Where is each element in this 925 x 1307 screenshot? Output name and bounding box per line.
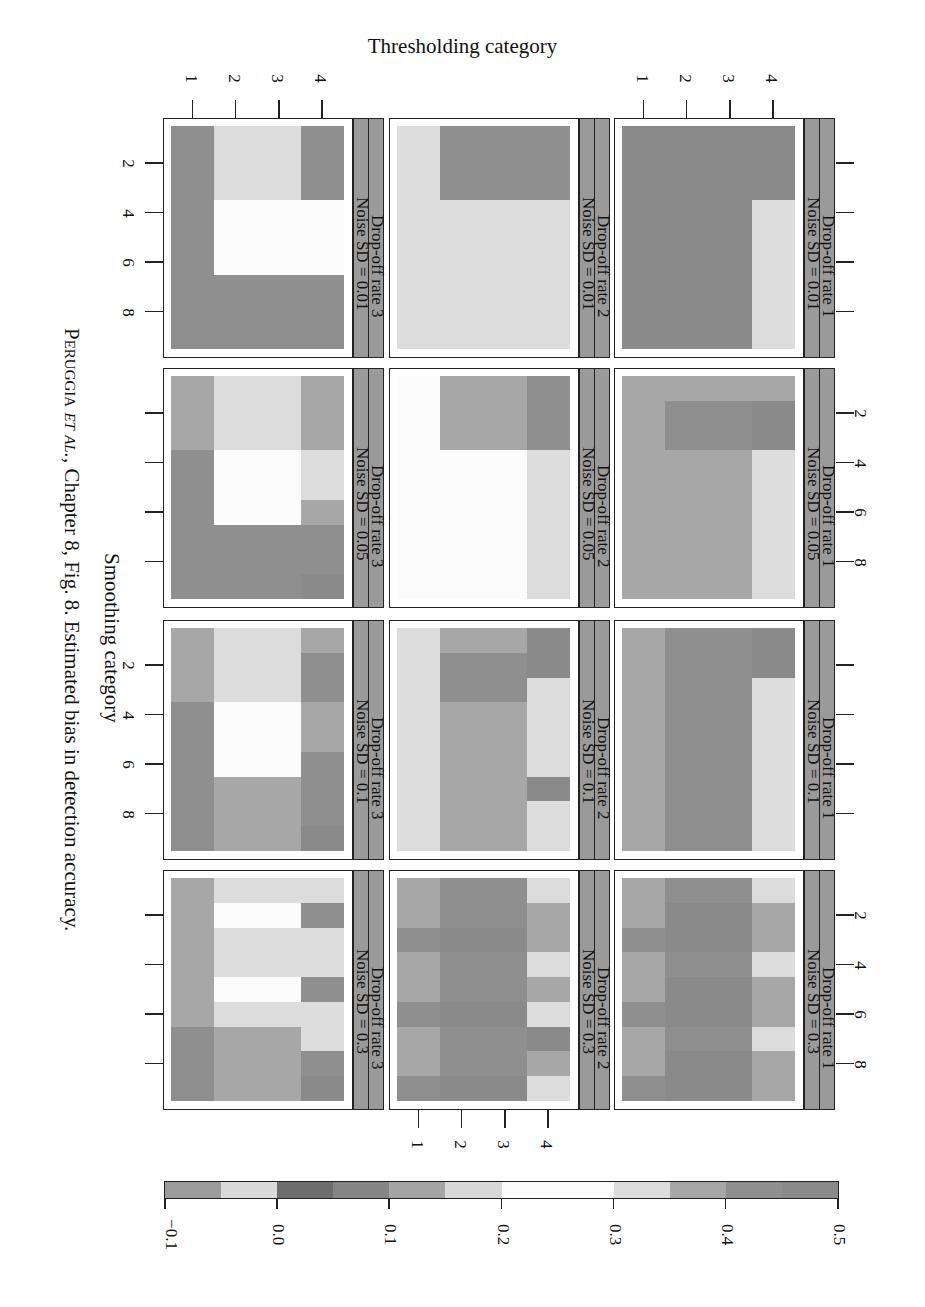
heatmap-cell [665, 250, 708, 275]
heatmap-cell [752, 702, 795, 727]
axis-tick [145, 813, 163, 815]
heatmap-cell [527, 376, 570, 401]
heatmap-cell [484, 376, 527, 401]
color-key [164, 1181, 839, 1199]
heatmap-cell [622, 151, 665, 176]
heatmap-cell [752, 1002, 795, 1027]
caption-etal: et al. [60, 412, 84, 458]
noise-strip: Noise SD = 0.1 [353, 620, 369, 860]
tick-label: 4 [852, 961, 869, 970]
heatmap-cell [752, 151, 795, 176]
color-key-label: 0.5 [831, 1224, 848, 1245]
noise-strip: Noise SD = 0.1 [804, 620, 820, 860]
heatmap-cell [709, 1027, 752, 1052]
heatmap-cell [484, 777, 527, 802]
axis-tick [145, 664, 163, 666]
heatmap-cell [665, 225, 708, 250]
heatmap-cell [527, 752, 570, 777]
heatmap-cell [301, 653, 344, 678]
heatmap-cell [527, 777, 570, 802]
heatmap-cell [214, 653, 257, 678]
axis-tick [145, 763, 163, 765]
heatmap-cell [484, 126, 527, 151]
dropoff-strip: Drop-off rate 2 [594, 870, 610, 1110]
heatmap-cell [752, 678, 795, 703]
heatmap-cell [527, 250, 570, 275]
heatmap-cell [665, 1051, 708, 1076]
axis-tick [418, 1110, 420, 1128]
heatmap-plot-area [171, 376, 344, 599]
heatmap-cell [171, 628, 214, 653]
heatmap-cell [752, 801, 795, 826]
heatmap-cell [527, 299, 570, 324]
heatmap-cell [709, 1002, 752, 1027]
color-key-bin [165, 1182, 222, 1198]
heatmap-cell [171, 475, 214, 500]
heatmap-cell [484, 450, 527, 475]
heatmap-cell [301, 126, 344, 151]
heatmap-cell [484, 628, 527, 653]
heatmap-cell [622, 200, 665, 225]
color-key-bin [502, 1182, 559, 1198]
dropoff-strip: Drop-off rate 2 [594, 118, 610, 358]
heatmap-cell [214, 777, 257, 802]
heatmap-cell [527, 903, 570, 928]
heatmap-cell [397, 426, 440, 451]
heatmap-cell [214, 727, 257, 752]
heatmap-cell [258, 475, 301, 500]
heatmap-cell [622, 1027, 665, 1052]
heatmap-cell [171, 826, 214, 851]
heatmap-cell [622, 126, 665, 151]
color-key-bin [277, 1182, 334, 1198]
heatmap-cell [301, 952, 344, 977]
heatmap-cell [258, 549, 301, 574]
heatmap-cell [709, 324, 752, 349]
heatmap-cell [665, 752, 708, 777]
tick-label: 4 [852, 459, 869, 468]
color-key-bin [782, 1182, 839, 1198]
noise-strip: Noise SD = 0.05 [353, 368, 369, 608]
heatmap-cell [171, 702, 214, 727]
heatmap-cell [709, 126, 752, 151]
heatmap-cell [665, 299, 708, 324]
heatmap-cell [484, 574, 527, 599]
heatmap-cell [709, 752, 752, 777]
heatmap-cell [527, 801, 570, 826]
axis-tick [836, 212, 854, 214]
axis-tick [461, 1110, 463, 1128]
heatmap-plot-area [171, 628, 344, 851]
tick-label: 8 [120, 810, 137, 819]
heatmap-cell [709, 500, 752, 525]
tick-label: 6 [120, 259, 137, 268]
heatmap-cell [709, 426, 752, 451]
heatmap-cell [397, 801, 440, 826]
heatmap-cell [171, 801, 214, 826]
dropoff-label: Drop-off rate 3 [369, 215, 386, 318]
axis-tick [729, 100, 731, 118]
heatmap-cell [397, 628, 440, 653]
tick-label: 4 [763, 74, 780, 83]
heatmap-cell [752, 653, 795, 678]
heatmap-cell [527, 1002, 570, 1027]
heatmap-cell [440, 653, 483, 678]
heatmap-cell [440, 376, 483, 401]
heatmap-cell [258, 126, 301, 151]
heatmap-cell [301, 426, 344, 451]
heatmap-panel [389, 870, 579, 1110]
heatmap-cell [214, 401, 257, 426]
heatmap-cell [622, 903, 665, 928]
heatmap-cell [440, 678, 483, 703]
axis-tick [836, 763, 854, 765]
heatmap-cell [397, 324, 440, 349]
heatmap-cell [440, 401, 483, 426]
heatmap-cell [214, 903, 257, 928]
heatmap-cell [622, 752, 665, 777]
heatmap-cell [484, 977, 527, 1002]
heatmap-cell [622, 977, 665, 1002]
axis-tick [547, 1110, 549, 1128]
heatmap-cell [258, 324, 301, 349]
heatmap-cell [709, 653, 752, 678]
heatmap-cell [440, 176, 483, 201]
heatmap-cell [214, 450, 257, 475]
heatmap-cell [665, 574, 708, 599]
